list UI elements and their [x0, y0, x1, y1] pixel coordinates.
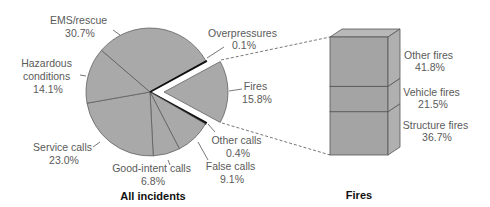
- label-hazardous: Hazardous conditions 14.1%: [21, 57, 75, 95]
- label-structure-fires: Structure fires 36.7%: [403, 119, 471, 143]
- label-fires: Fires 15.8%: [242, 80, 272, 105]
- leader-false-calls: [198, 142, 208, 160]
- label-other-calls: Other calls 0.4%: [211, 134, 264, 159]
- segment-vehicle-fires: [330, 86, 388, 111]
- pie-all-incidents: [86, 28, 228, 156]
- segment-other-fires: [330, 37, 388, 86]
- bar-title: Fires: [346, 189, 372, 201]
- fires-stacked-column: [330, 29, 400, 155]
- label-ems: EMS/rescue 30.7%: [50, 14, 110, 39]
- label-vehicle-fires: Vehicle fires 21.5%: [403, 86, 463, 110]
- label-false-calls: False calls 9.1%: [206, 160, 259, 185]
- leader-ems: [113, 30, 120, 35]
- label-good-intent: Good-intent calls 6.8%: [112, 162, 194, 187]
- side-other-fires: [388, 29, 400, 86]
- leader-fires: [229, 89, 242, 91]
- pie-title: All incidents: [120, 190, 185, 202]
- side-structure-fires: [388, 104, 400, 155]
- leader-hazardous: [80, 75, 86, 76]
- leader-overpressures: [207, 47, 224, 58]
- label-service: Service calls 23.0%: [33, 141, 95, 166]
- segment-structure-fires: [330, 112, 388, 155]
- leader-other-calls: [208, 124, 215, 132]
- label-overpressures: Overpressures 0.1%: [208, 27, 280, 51]
- label-other-fires: Other fires 41.8%: [404, 49, 456, 73]
- chart: EMS/rescue 30.7% Hazardous conditions 14…: [0, 0, 490, 207]
